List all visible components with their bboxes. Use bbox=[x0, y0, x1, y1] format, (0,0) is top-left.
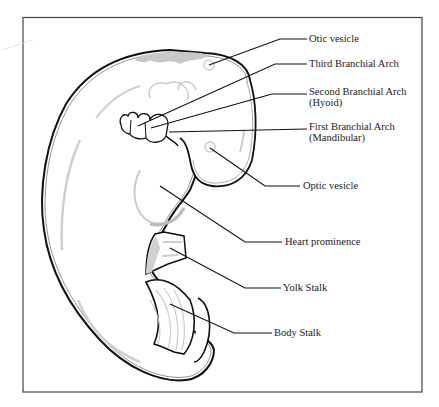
label-otic-vesicle: Otic vesicle bbox=[309, 33, 359, 44]
label-heart-prominence: Heart prominence bbox=[285, 236, 361, 247]
label-third-branchial-arch: Third Branchial Arch bbox=[309, 58, 399, 69]
label-body-stalk: Body Stalk bbox=[274, 327, 321, 338]
embryo-diagram: Otic vesicle Third Branchial Arch Second… bbox=[0, 0, 439, 407]
embryo-body bbox=[42, 50, 250, 380]
label-second-branchial-arch: Second Branchial Arch (Hyoid) bbox=[309, 86, 406, 108]
label-first-branchial-arch: First Branchial Arch (Mandibular) bbox=[309, 121, 395, 143]
label-yolk-stalk: Yolk Stalk bbox=[283, 282, 327, 293]
leader-yolk-stalk bbox=[170, 248, 281, 288]
label-optic-vesicle: Optic vesicle bbox=[303, 180, 358, 191]
